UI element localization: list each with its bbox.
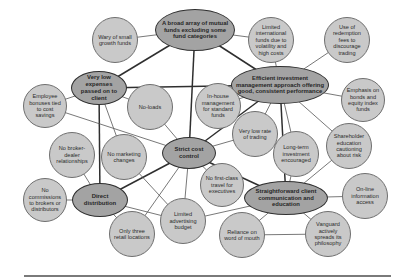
node-label: Straightforward client communication and…	[245, 188, 327, 208]
node-label: Emphasis on bonds and equity index funds	[342, 87, 384, 113]
activity-node-word-of-mouth: Reliance on word of mouth	[219, 212, 265, 258]
activity-node-shareholder-education: Shareholder education cautioning about r…	[326, 123, 372, 169]
activity-node-long-term-investment: Long-term investment encouraged	[273, 131, 319, 177]
core-node-very-low-expenses: Very low expenses passed on to client	[71, 71, 127, 105]
node-label: Very low rate of trading	[233, 128, 277, 141]
node-label: Shareholder education cautioning about r…	[327, 133, 371, 159]
node-label: Long-term investment encouraged	[274, 144, 318, 163]
node-label: No commissions to brokers or distributor…	[24, 187, 66, 213]
activity-node-low-rate-trading: Very low rate of trading	[232, 111, 278, 157]
core-node-efficient-investment: Efficient investment management approach…	[231, 66, 329, 104]
activity-node-vanguard-philosophy: Vanguard actively spreads its philosophy	[305, 211, 351, 257]
node-label: Direct distribution	[73, 193, 127, 207]
core-node-direct-distribution: Direct distribution	[72, 183, 128, 217]
node-label: A broad array of mutual funds excluding …	[156, 20, 234, 40]
core-node-broad-array: A broad array of mutual funds excluding …	[155, 9, 235, 51]
activity-node-online-information: On-line information access	[342, 173, 388, 219]
activity-node-no-loads: No-loads	[127, 84, 173, 130]
node-label: Only three retail locations	[110, 228, 154, 241]
node-label: Strict cost control	[163, 146, 215, 160]
node-label: Reliance on word of mouth	[220, 229, 264, 242]
node-label: Efficient investment management approach…	[232, 75, 328, 95]
activity-node-limited-advertising: Limited advertising budget	[160, 198, 206, 244]
node-label: No first-class travel for executives	[201, 175, 243, 194]
activity-node-three-retail: Only three retail locations	[109, 211, 155, 257]
node-label: Very low expenses passed on to client	[72, 74, 126, 101]
activity-node-no-first-class: No first-class travel for executives	[200, 163, 244, 207]
node-label: No broker-dealer relationships	[50, 145, 94, 164]
core-node-straightforward-client: Straightforward client communication and…	[244, 181, 328, 215]
node-label: No-loads	[136, 104, 164, 110]
node-label: Wary of small growth funds	[93, 34, 137, 47]
activity-node-limited-international: Limited international funds due to volat…	[248, 17, 294, 63]
node-label: Vanguard actively spreads its philosophy	[306, 221, 350, 247]
node-label: In-house management for standard funds	[196, 93, 240, 119]
activity-node-no-commissions: No commissions to brokers or distributor…	[23, 178, 67, 222]
node-label: Limited advertising budget	[161, 211, 205, 230]
activity-node-no-broker-dealer: No broker-dealer relationships	[49, 132, 95, 178]
node-label: No marketing changes	[102, 151, 146, 164]
bottom-divider	[24, 275, 391, 277]
node-label: Employee bonuses tied to cost savings	[24, 93, 66, 119]
activity-node-redemption-fees: Use of redemption fees to discourage tra…	[324, 17, 370, 63]
activity-node-emphasis-bonds: Emphasis on bonds and equity index funds	[341, 78, 385, 122]
node-label: Use of redemption fees to discourage tra…	[325, 24, 369, 56]
activity-node-no-marketing-changes: No marketing changes	[101, 134, 147, 180]
activity-node-employee-bonuses: Employee bonuses tied to cost savings	[23, 84, 67, 128]
core-node-strict-cost-control: Strict cost control	[162, 137, 216, 169]
activity-node-wary-small-growth: Wary of small growth funds	[92, 17, 138, 63]
node-label: Limited international funds due to volat…	[249, 24, 293, 56]
node-label: On-line information access	[343, 186, 387, 205]
